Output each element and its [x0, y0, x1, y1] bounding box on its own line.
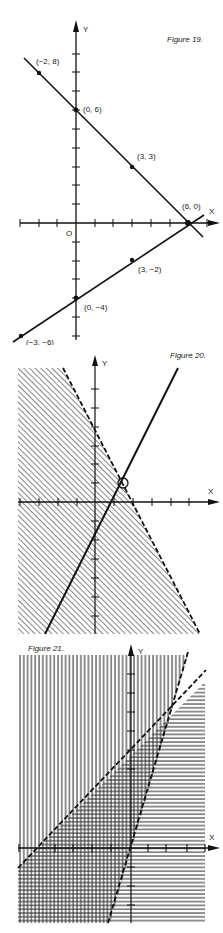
point-label: (3, 3) [137, 152, 156, 161]
line-y-eq-two-thirds-x-minus-4 [13, 215, 204, 342]
point-label: (0, 6) [83, 105, 102, 114]
figure-21: Y X Figure 21. [0, 640, 223, 933]
figure-caption: Figure 20. [170, 351, 206, 360]
shaded-region [18, 368, 200, 634]
y-axis-arrow-icon [128, 644, 134, 656]
y-axis-arrow-icon [92, 355, 98, 366]
x-axis-label: X [209, 833, 215, 842]
point-label: (−3, −6) [26, 338, 54, 345]
figure-19-graph: Y X O [0, 0, 223, 345]
origin-label: O [66, 229, 72, 238]
x-axis-arrow-icon [208, 499, 220, 505]
point-neg3-neg6 [19, 334, 23, 338]
y-axis-arrow-icon [73, 20, 79, 32]
figure-20: Y X Figure 20. [0, 345, 223, 640]
point-label: (0, −4) [84, 303, 108, 312]
point-neg2-8 [37, 71, 41, 75]
y-axis-label: Y [102, 359, 108, 368]
plotted-points [19, 71, 191, 338]
y-axis-label: Y [138, 647, 144, 656]
point-label: (6, 0) [182, 202, 201, 211]
figure-caption: Figure 19. [167, 35, 203, 44]
line-y-eq-6-minus-x [24, 58, 203, 237]
point-label: (−2, 8) [36, 57, 60, 66]
point-0-neg4 [74, 296, 79, 301]
x-axis-label: X [208, 487, 214, 496]
x-axis-arrow-icon [208, 220, 220, 226]
point-6-0 [185, 220, 191, 226]
point-3-neg2 [130, 258, 134, 262]
point-3-3 [130, 165, 134, 169]
figure-caption: Figure 21. [28, 644, 64, 653]
figure-20-graph: Y X Figure 20. [0, 345, 223, 640]
x-axis-label: X [209, 207, 215, 216]
point-label: (3, −2) [138, 265, 162, 274]
figure-21-graph: Y X Figure 21. [0, 640, 223, 933]
point-0-6 [74, 108, 79, 113]
y-axis-label: Y [83, 25, 89, 34]
x-axis-arrow-icon [208, 845, 220, 851]
figure-19: Y X O [0, 0, 223, 345]
